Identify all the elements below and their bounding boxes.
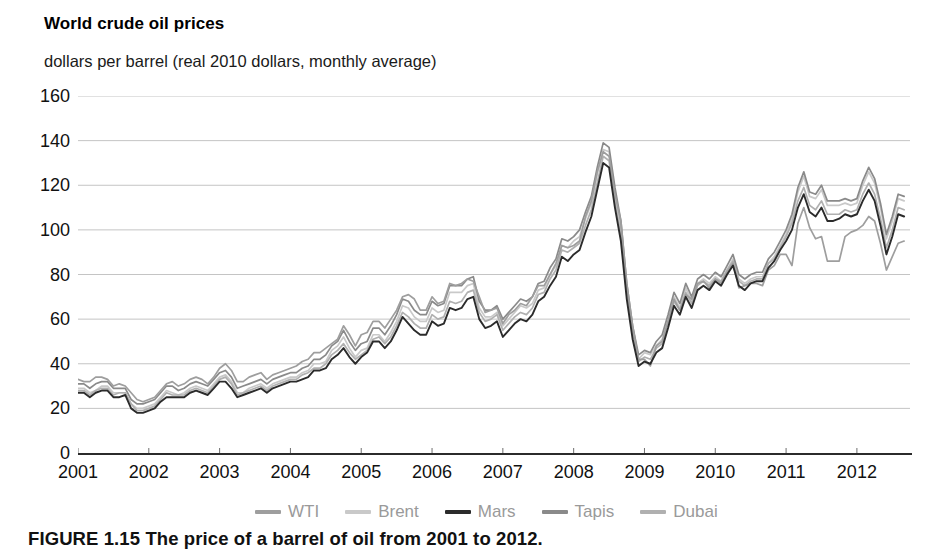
legend-label: Mars [478, 502, 516, 522]
plot-area [78, 96, 910, 453]
y-tick-label: 60 [10, 310, 70, 328]
x-tick-label: 2007 [468, 462, 538, 483]
figure-container: World crude oil prices dollars per barre… [0, 0, 944, 559]
x-tick-label: 2009 [609, 462, 679, 483]
x-tick-label: 2006 [397, 462, 467, 483]
y-tick-label: 100 [10, 221, 70, 239]
x-tick-label: 2012 [822, 462, 892, 483]
legend-item-mars[interactable]: Mars [445, 502, 516, 522]
legend-item-dubai[interactable]: Dubai [640, 502, 717, 522]
x-tick-label: 2003 [185, 462, 255, 483]
y-tick-label: 0 [10, 444, 70, 462]
figure-caption: FIGURE 1.15 The price of a barrel of oil… [28, 528, 543, 550]
y-tick-label: 140 [10, 132, 70, 150]
y-tick-label: 20 [10, 399, 70, 417]
x-tick-label: 2001 [43, 462, 113, 483]
x-tick-label: 2004 [255, 462, 325, 483]
legend-label: WTI [288, 502, 319, 522]
x-tick-label: 2005 [326, 462, 396, 483]
legend-swatch-brent [345, 510, 371, 514]
y-tick-label: 40 [10, 355, 70, 373]
chart-title: World crude oil prices [44, 14, 224, 34]
legend-item-wti[interactable]: WTI [255, 502, 319, 522]
legend-label: Brent [378, 502, 419, 522]
series-line-tapis [78, 143, 904, 404]
legend-swatch-mars [445, 510, 471, 514]
x-tick-label: 2010 [680, 462, 750, 483]
series-line-mars [78, 163, 904, 413]
legend-label: Tapis [575, 502, 615, 522]
x-tick-label: 2002 [114, 462, 184, 483]
line-chart-svg [78, 96, 910, 453]
chart-subtitle: dollars per barrel (real 2010 dollars, m… [44, 52, 437, 71]
y-tick-label: 120 [10, 176, 70, 194]
x-tick-label: 2011 [751, 462, 821, 483]
legend-swatch-dubai [640, 510, 666, 514]
x-tick-label: 2008 [539, 462, 609, 483]
legend-label: Dubai [673, 502, 717, 522]
legend-swatch-wti [255, 510, 281, 514]
legend-item-brent[interactable]: Brent [345, 502, 419, 522]
y-tick-label: 80 [10, 266, 70, 284]
series-line-brent [78, 150, 904, 409]
chart-legend: WTIBrentMarsTapisDubai [255, 500, 815, 524]
legend-item-tapis[interactable]: Tapis [542, 502, 615, 522]
x-axis-line [78, 453, 912, 456]
series-line-dubai [78, 156, 904, 410]
legend-swatch-tapis [542, 510, 568, 514]
y-tick-label: 160 [10, 87, 70, 105]
